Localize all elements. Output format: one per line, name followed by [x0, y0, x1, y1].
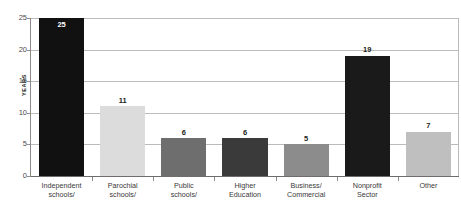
category-label-line: Higher — [214, 181, 275, 190]
y-tick-label: 5 — [11, 140, 27, 148]
bar-value-label: 19 — [345, 46, 390, 54]
bar-value-label: 11 — [100, 97, 145, 105]
x-axis-separator — [214, 177, 215, 181]
bar[interactable] — [345, 56, 390, 176]
bar-group[interactable]: 6 — [222, 18, 267, 176]
bar-group[interactable]: 5 — [284, 18, 329, 176]
x-axis-separator — [92, 177, 93, 181]
bar-chart-figure: YEARS 2520151050 2511665197 Independents… — [0, 0, 461, 202]
y-tick-label: 25 — [11, 14, 27, 22]
bar-value-label: 6 — [222, 129, 267, 137]
category-label-line: schools/ — [92, 190, 153, 199]
y-axis-tick — [27, 50, 31, 51]
y-tick-label: 10 — [11, 109, 27, 117]
category-label: HigherEducation — [214, 181, 275, 199]
y-tick-label: 0 — [11, 172, 27, 180]
bar[interactable] — [161, 138, 206, 176]
bar-value-label: 6 — [161, 129, 206, 137]
category-label-line: Education — [214, 190, 275, 199]
bar[interactable] — [284, 144, 329, 176]
x-axis-category-labels: Independentschools/Parochialschools/Publ… — [31, 181, 459, 202]
y-axis-tick — [27, 81, 31, 82]
category-label: Other — [398, 181, 459, 190]
y-tick-label: 15 — [11, 77, 27, 85]
x-axis-separator — [153, 177, 154, 181]
category-label-line: Other — [398, 181, 459, 190]
y-axis-tick — [27, 113, 31, 114]
bar-group[interactable]: 6 — [161, 18, 206, 176]
category-label-line: Parochial — [92, 181, 153, 190]
bar-group[interactable]: 7 — [406, 18, 451, 176]
category-label: Parochialschools/ — [92, 181, 153, 199]
x-axis-separator — [337, 177, 338, 181]
bar[interactable] — [100, 106, 145, 176]
category-label-line: Commercial — [276, 190, 337, 199]
category-label: Business/Commercial — [276, 181, 337, 199]
category-label: Independentschools/ — [31, 181, 92, 199]
category-label-line: Independent — [31, 181, 92, 190]
category-label-line: Business/ — [276, 181, 337, 190]
bar-value-label: 5 — [284, 135, 329, 143]
x-axis-baseline — [30, 176, 459, 177]
bar[interactable] — [39, 18, 84, 176]
y-axis-tick-labels: 2520151050 — [11, 12, 27, 180]
bar-value-label: 7 — [406, 122, 451, 130]
bar-value-label: 25 — [39, 21, 84, 29]
bar-group[interactable]: 25 — [39, 18, 84, 176]
bar[interactable] — [222, 138, 267, 176]
bar-group[interactable]: 11 — [100, 18, 145, 176]
category-label-line: Sector — [337, 190, 398, 199]
bars-layer: 2511665197 — [31, 18, 459, 176]
category-label-line: Nonprofit — [337, 181, 398, 190]
y-axis-tick — [27, 18, 31, 19]
category-label: NonprofitSector — [337, 181, 398, 199]
x-axis-separator — [398, 177, 399, 181]
category-label-line: Public — [153, 181, 214, 190]
category-label-line: schools/ — [153, 190, 214, 199]
category-label: Publicschools/ — [153, 181, 214, 199]
bar[interactable] — [406, 132, 451, 176]
y-axis-tick — [27, 144, 31, 145]
category-label-line: schools/ — [31, 190, 92, 199]
y-axis-tick — [27, 176, 31, 177]
x-axis-separator — [276, 177, 277, 181]
bar-group[interactable]: 19 — [345, 18, 390, 176]
y-tick-label: 20 — [11, 46, 27, 54]
